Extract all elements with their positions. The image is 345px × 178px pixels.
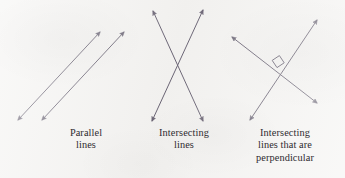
perpendicular-lines-group bbox=[232, 20, 317, 120]
caption-parallel-lines: Parallel lines bbox=[30, 127, 142, 152]
parallel-lines-group bbox=[18, 32, 124, 120]
parallel-line-2 bbox=[42, 32, 124, 120]
parallel-line-1 bbox=[18, 32, 100, 120]
perpendicular-line-2 bbox=[250, 20, 317, 120]
intersecting-lines-group bbox=[152, 10, 203, 121]
caption-perpendicular-lines: Intersecting lines that are perpendicula… bbox=[228, 127, 342, 164]
figure-sheet: Parallel lines Intersecting lines Inters… bbox=[0, 0, 345, 178]
caption-intersecting-lines: Intersecting lines bbox=[128, 127, 240, 152]
perpendicular-line-1 bbox=[232, 37, 317, 103]
right-angle-mark-icon bbox=[272, 56, 284, 68]
